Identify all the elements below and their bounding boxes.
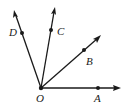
point-O <box>39 86 43 90</box>
ray-OB: B <box>41 35 101 88</box>
label-C: C <box>57 25 65 37</box>
ray-OD: D <box>8 10 41 88</box>
ray-OA: A <box>41 85 121 104</box>
label-B: B <box>86 55 93 67</box>
label-A: A <box>93 92 101 104</box>
label-D: D <box>8 26 17 38</box>
point-D <box>20 31 24 35</box>
ray-OA-arrowhead-icon <box>113 85 121 91</box>
point-C <box>49 28 53 32</box>
point-B <box>82 48 86 52</box>
point-A <box>96 86 100 90</box>
ray-OC-line <box>41 12 54 88</box>
geometry-diagram: A B C D O <box>0 0 127 106</box>
vertex-O: O <box>36 86 44 104</box>
label-O: O <box>36 92 44 104</box>
ray-OD-arrowhead-icon <box>13 10 18 18</box>
ray-OD-line <box>16 16 41 88</box>
ray-OC: C <box>41 7 65 88</box>
